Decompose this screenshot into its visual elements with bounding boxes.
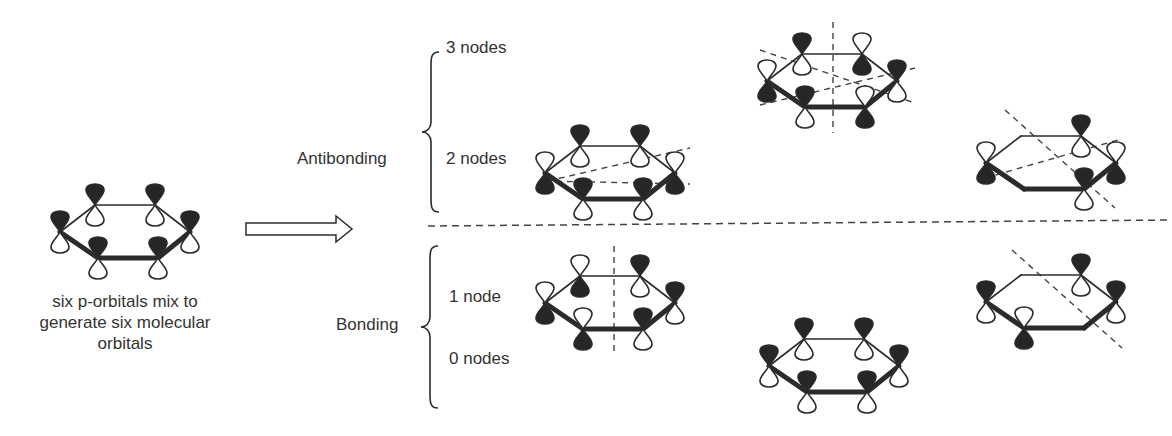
filled-lobe-icon — [856, 107, 874, 128]
open-lobe-icon — [86, 205, 104, 226]
open-lobe-icon — [631, 146, 649, 167]
open-lobe-icon — [1072, 136, 1090, 157]
level-1-node-label: 1 node — [449, 287, 501, 307]
filled-lobe-icon — [890, 345, 908, 366]
level-3-nodes-label: 3 nodes — [446, 38, 507, 58]
orbital-anti-2-nodes-a — [536, 125, 690, 220]
open-lobe-icon — [89, 258, 107, 279]
filled-lobe-icon — [977, 281, 995, 302]
open-lobe-icon — [1075, 189, 1093, 210]
filled-lobe-icon — [760, 345, 778, 366]
open-lobe-icon — [666, 152, 684, 173]
orbital-bond-1-node-b — [977, 250, 1125, 349]
open-lobe-icon — [1107, 142, 1125, 163]
open-lobe-icon — [574, 199, 592, 220]
filled-lobe-icon — [51, 211, 69, 232]
filled-lobe-icon — [1072, 254, 1090, 275]
antibonding-brace-icon — [422, 52, 439, 212]
orbital-anti-3-nodes — [758, 22, 915, 133]
filled-lobe-icon — [1072, 115, 1090, 136]
filled-lobe-icon — [795, 318, 813, 339]
open-lobe-icon — [536, 152, 554, 173]
antibonding-label: Antibonding — [297, 149, 387, 169]
open-lobe-icon — [634, 199, 652, 220]
open-lobe-icon — [855, 339, 873, 360]
filled-lobe-icon — [574, 329, 592, 350]
open-lobe-icon — [149, 258, 167, 279]
open-lobe-icon — [977, 142, 995, 163]
open-lobe-icon — [631, 276, 649, 297]
caption-line-2: generate six molecular — [10, 312, 240, 333]
open-lobe-icon — [795, 339, 813, 360]
filled-lobe-icon — [855, 318, 873, 339]
open-lobe-icon — [1072, 275, 1090, 296]
open-lobe-icon — [796, 107, 814, 128]
filled-lobe-icon — [853, 54, 871, 75]
diagram-extras — [246, 52, 1172, 408]
open-lobe-icon — [571, 146, 589, 167]
filled-lobe-icon — [1107, 281, 1125, 302]
level-2-nodes-label: 2 nodes — [446, 149, 507, 169]
open-lobe-icon — [798, 392, 816, 413]
open-lobe-icon — [858, 392, 876, 413]
filled-lobe-icon — [181, 211, 199, 232]
hollow-arrow-icon — [246, 216, 352, 242]
orbital-bond-0-nodes — [760, 318, 908, 413]
filled-lobe-icon — [631, 255, 649, 276]
nodal-plane-line — [1005, 110, 1115, 208]
caption: six p-orbitals mix to generate six molec… — [10, 291, 240, 354]
nodal-plane-line — [985, 140, 1118, 178]
orbital-bond-1-node-a — [536, 246, 684, 353]
caption-line-3: orbitals — [10, 333, 240, 354]
bonding-antibonding-divider — [428, 220, 1172, 226]
filled-lobe-icon — [631, 125, 649, 146]
open-lobe-icon — [793, 54, 811, 75]
orbital-reference — [51, 184, 199, 279]
filled-lobe-icon — [888, 60, 906, 81]
open-lobe-icon — [758, 60, 776, 81]
filled-lobe-icon — [666, 282, 684, 303]
filled-lobe-icon — [793, 33, 811, 54]
open-lobe-icon — [536, 282, 554, 303]
filled-lobe-icon — [1015, 328, 1033, 349]
level-0-nodes-label: 0 nodes — [449, 349, 510, 369]
filled-lobe-icon — [571, 276, 589, 297]
caption-line-1: six p-orbitals mix to — [10, 291, 240, 312]
mo-diagram — [0, 0, 1172, 436]
open-lobe-icon — [146, 205, 164, 226]
bonding-brace-icon — [421, 246, 438, 408]
open-lobe-icon — [853, 33, 871, 54]
bonding-label: Bonding — [336, 315, 398, 335]
open-lobe-icon — [634, 329, 652, 350]
orbital-rings — [51, 22, 1125, 413]
filled-lobe-icon — [571, 125, 589, 146]
filled-lobe-icon — [86, 184, 104, 205]
orbital-anti-2-nodes-b — [977, 110, 1125, 210]
filled-lobe-icon — [146, 184, 164, 205]
open-lobe-icon — [571, 255, 589, 276]
